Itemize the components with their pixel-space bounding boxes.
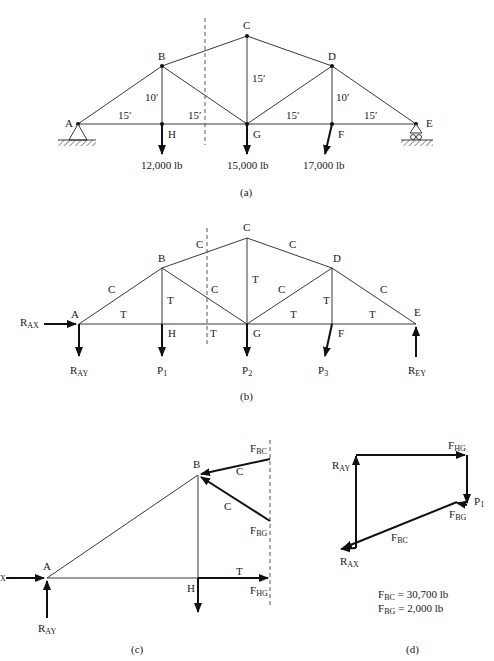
- rax-label: RAX: [340, 555, 359, 569]
- member-bg-state: C: [224, 500, 231, 512]
- p3-label: P3: [318, 364, 328, 378]
- dim-df: 10′: [336, 91, 349, 103]
- node-c-label: C: [243, 19, 250, 31]
- member-fe-state: T: [369, 308, 376, 320]
- node-c-label: C: [243, 221, 250, 233]
- node-d-label: D: [333, 252, 341, 264]
- rax-label: RAX: [20, 316, 39, 330]
- node-g-label: G: [253, 327, 261, 339]
- result-fbg: FBG= 2,000 lb: [378, 602, 444, 616]
- node-b-label: B: [158, 252, 165, 264]
- load-g-label: 15,000 lb: [227, 159, 269, 171]
- member-hg-state: T: [210, 327, 217, 339]
- member-gd-state: C: [278, 283, 285, 295]
- figure-d: FHG RAY P1 FBG FBC RAX FBC= 30,700 lb FB…: [332, 439, 484, 656]
- p1-label: P1: [157, 364, 167, 378]
- dim-gf: 15′: [286, 109, 299, 121]
- node-e-label: E: [414, 306, 421, 318]
- truss-diagram: A B C D E H G F 15′ 15′ 15′ 15′ 10′ 15′ …: [0, 0, 494, 661]
- caption-c: (c): [131, 643, 144, 656]
- force-fbg-arrow: [201, 477, 270, 521]
- member-bg-state: C: [211, 283, 218, 295]
- figure-b: A B C D E H G F C C C C C C T T T T T T …: [20, 221, 426, 403]
- result-fbc: FBC= 30,700 lb: [378, 588, 449, 602]
- node-h-label: H: [168, 327, 176, 339]
- ray-label: RAY: [332, 459, 350, 473]
- p2-label: P2: [242, 364, 252, 378]
- dim-ah: 15′: [118, 109, 131, 121]
- figure-a: A B C D E H G F 15′ 15′ 15′ 15′ 10′ 15′ …: [58, 18, 433, 199]
- load-h-label: 12,000 lb: [141, 159, 183, 171]
- load-p3-arrow: [325, 324, 332, 356]
- member-ab-state: C: [108, 283, 115, 295]
- member-ah-state: T: [120, 308, 127, 320]
- caption-b: (b): [240, 390, 253, 403]
- node-f-label: F: [338, 128, 344, 140]
- fbc-label: FBC: [250, 442, 267, 456]
- polygon-rax-arrow: [341, 548, 356, 549]
- caption-a: (a): [240, 186, 253, 199]
- node-a-label: A: [65, 117, 73, 129]
- fbg-label: FBG: [250, 524, 267, 538]
- node-a-label: A: [71, 308, 79, 320]
- pin-support-icon: [58, 124, 96, 146]
- p1-label: P1: [474, 495, 484, 509]
- rey-label: REY: [408, 364, 426, 378]
- node-b-label: B: [193, 458, 200, 470]
- fhg-label: FHG: [250, 584, 268, 598]
- member-gf-state: T: [290, 308, 297, 320]
- member-bc-state: C: [196, 238, 203, 250]
- node-e-label: E: [426, 117, 433, 129]
- fbg-label: FBG: [449, 508, 466, 522]
- member-de-state: C: [380, 283, 387, 295]
- dim-fe: 15′: [364, 109, 377, 121]
- load-arrow-f: [325, 124, 332, 154]
- member-df-state: T: [323, 294, 330, 306]
- dim-bh: 10′: [145, 91, 158, 103]
- member-cd-state: C: [289, 238, 296, 250]
- node-g-label: G: [253, 128, 261, 140]
- node-a-label: A: [43, 560, 51, 572]
- member-cg-state: T: [252, 273, 259, 285]
- fhg-label: FHG: [448, 439, 466, 453]
- node-b-label: B: [158, 50, 165, 62]
- caption-d: (d): [406, 643, 419, 656]
- node-h-label: H: [168, 128, 176, 140]
- node-d-label: D: [328, 50, 336, 62]
- fbc-label: FBC: [391, 531, 408, 545]
- dim-cg: 15′: [252, 72, 265, 84]
- ray-label: RAY: [70, 364, 88, 378]
- figure-c: A B H C C T FBC FBG FHG RAY X (c): [0, 440, 270, 656]
- node-h-label: H: [187, 582, 195, 594]
- member-bc-state: C: [236, 465, 243, 477]
- load-f-label: 17,000 lb: [303, 159, 345, 171]
- polygon-fbg-arrow: [457, 503, 467, 505]
- member-hg-state: T: [236, 565, 243, 577]
- dim-hg: 15′: [188, 109, 201, 121]
- member-bh-state: T: [167, 294, 174, 306]
- node-f-label: F: [338, 327, 344, 339]
- rax-label: X: [0, 574, 6, 583]
- ray-label: RAY: [38, 622, 56, 636]
